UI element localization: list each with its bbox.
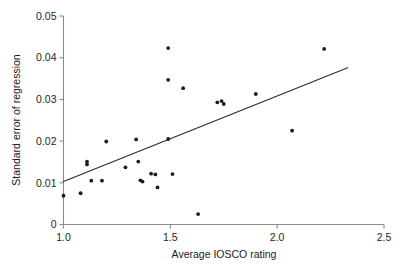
data-point [322, 47, 326, 51]
x-tick-marks [64, 225, 385, 229]
data-point [215, 100, 219, 104]
data-point-layer [62, 46, 326, 216]
data-point [254, 92, 258, 96]
data-point [79, 191, 83, 195]
data-point [149, 172, 153, 176]
y-tick-marks [60, 16, 64, 225]
x-tick-label: 1.0 [56, 231, 71, 243]
y-tick-label: 0 [51, 218, 57, 230]
plot-canvas: 00.010.020.030.040.05 1.01.52.02.5 Avera… [0, 0, 400, 265]
x-axis-title: Average IOSCO rating [172, 248, 277, 260]
x-tick-label: 2.5 [377, 231, 392, 243]
regression-fit-line [64, 68, 348, 182]
data-point [290, 129, 294, 133]
data-point [166, 46, 170, 50]
data-point [153, 173, 157, 177]
y-tick-label: 0.04 [36, 51, 57, 63]
data-point [100, 179, 104, 183]
y-tick-label: 0.05 [36, 10, 57, 22]
x-axis-group: 1.01.52.02.5 [56, 225, 391, 243]
data-point [85, 163, 89, 167]
y-tick-labels: 00.010.020.030.040.05 [36, 10, 57, 231]
data-point [222, 102, 226, 106]
y-tick-label: 0.03 [36, 93, 57, 105]
data-point [181, 86, 185, 90]
data-point [156, 185, 160, 189]
data-point [104, 140, 108, 144]
y-tick-label: 0.01 [36, 177, 57, 189]
data-point [196, 212, 200, 216]
data-point [89, 179, 93, 183]
data-point [166, 78, 170, 82]
data-point [136, 160, 140, 164]
data-point [171, 172, 175, 176]
x-tick-label: 1.5 [163, 231, 178, 243]
y-axis-group: 00.010.020.030.040.05 [36, 10, 63, 231]
data-point [124, 165, 128, 169]
data-point [134, 138, 138, 142]
data-point [62, 194, 66, 198]
data-point [141, 180, 145, 184]
y-axis-title: Standard error of regression [10, 54, 22, 185]
data-point [166, 137, 170, 141]
x-tick-labels: 1.01.52.02.5 [56, 231, 391, 243]
scatter-plot-figure: 00.010.020.030.040.05 1.01.52.02.5 Avera… [0, 0, 400, 265]
y-tick-label: 0.02 [36, 135, 57, 147]
x-tick-label: 2.0 [270, 231, 285, 243]
